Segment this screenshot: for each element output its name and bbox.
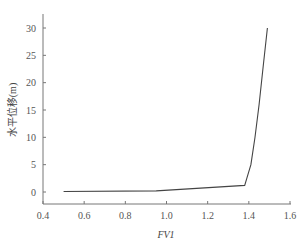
x-tick-label: 1.2 [201, 210, 214, 221]
y-tick-label: 20 [26, 77, 36, 88]
x-tick-label: 1.6 [284, 210, 297, 221]
x-tick-label: 1.0 [160, 210, 173, 221]
y-tick-label: 10 [26, 132, 36, 143]
x-tick-label: 0.6 [78, 210, 91, 221]
y-tick-label: 25 [26, 50, 36, 61]
axes [43, 14, 291, 204]
data-line [64, 28, 268, 192]
x-tick-label: 0.4 [37, 210, 50, 221]
x-tick-label: 1.4 [243, 210, 256, 221]
y-tick-label: 5 [31, 159, 36, 170]
y-tick-label: 0 [31, 187, 36, 198]
x-tick-label: 0.8 [119, 210, 132, 221]
y-tick-label: 15 [26, 105, 36, 116]
chart: 051015202530 0.40.60.81.01.21.41.6 FV1 水… [0, 0, 308, 245]
y-tick-label: 30 [26, 23, 36, 34]
y-axis-label: 水平位移(m) [6, 83, 19, 137]
x-axis-label: FV1 [156, 229, 174, 240]
